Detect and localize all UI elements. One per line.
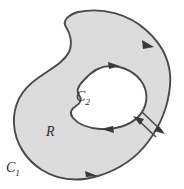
inner-curve-label-subscript: 2	[85, 97, 90, 107]
region-label-r: R	[45, 124, 55, 139]
greens-theorem-region-figure: R C1 C2	[0, 0, 184, 189]
region-label-base: R	[45, 124, 55, 139]
outer-curve-label-subscript: 1	[15, 168, 20, 178]
figure-canvas: R C1 C2	[0, 0, 184, 189]
